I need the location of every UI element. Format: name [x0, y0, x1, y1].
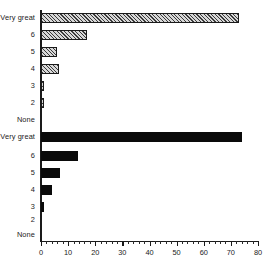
x-tick-minor: [57, 241, 58, 244]
x-tick-minor: [171, 241, 172, 244]
bar-top-6: [41, 30, 87, 40]
x-tick-minor: [182, 241, 183, 244]
x-tick-minor: [52, 241, 53, 244]
category-label: 6: [0, 27, 35, 43]
bar-row: 5: [0, 44, 265, 60]
x-tick-minor: [63, 241, 64, 244]
x-tick-minor: [90, 241, 91, 244]
category-label: 2: [0, 95, 35, 111]
x-tick-minor: [209, 241, 210, 244]
x-tick-label: 60: [194, 248, 214, 257]
x-tick-minor: [106, 241, 107, 244]
bar-bottom-6: [41, 151, 78, 161]
x-tick-minor: [166, 241, 167, 244]
x-tick-minor: [225, 241, 226, 244]
x-tick-label: 10: [58, 248, 78, 257]
x-tick-major: [68, 241, 69, 246]
category-label: 4: [0, 61, 35, 77]
bar-bottom-4: [41, 185, 52, 195]
x-tick-minor: [133, 241, 134, 244]
x-tick-minor: [160, 241, 161, 244]
x-tick-major: [258, 241, 259, 246]
category-label: 4: [0, 182, 35, 198]
category-label: None: [0, 227, 35, 243]
bar-top-3: [41, 81, 44, 91]
x-tick-minor: [242, 241, 243, 244]
category-label: Very great: [0, 129, 35, 145]
x-tick-minor: [46, 241, 47, 244]
x-tick-minor: [101, 241, 102, 244]
x-tick-minor: [74, 241, 75, 244]
bar-top-2: [41, 98, 44, 108]
x-tick-major: [150, 241, 151, 246]
bar-row: 2: [0, 212, 265, 228]
bar-row: Very great: [0, 129, 265, 145]
bar-row: 4: [0, 61, 265, 77]
bar-row: 4: [0, 182, 265, 198]
x-tick-major: [122, 241, 123, 246]
bar-bottom-3: [41, 202, 44, 212]
x-tick-minor: [144, 241, 145, 244]
x-tick-major: [177, 241, 178, 246]
x-tick-minor: [128, 241, 129, 244]
x-tick-minor: [155, 241, 156, 244]
plot-area: Very great 6 5 4 3: [0, 0, 265, 264]
x-tick-label: 30: [112, 248, 132, 257]
x-tick-minor: [215, 241, 216, 244]
bar-bottom-5: [41, 168, 60, 178]
x-tick-major: [95, 241, 96, 246]
bar-row: 6: [0, 27, 265, 43]
bar-row: None: [0, 112, 265, 128]
x-tick-minor: [220, 241, 221, 244]
category-label: 5: [0, 165, 35, 181]
x-tick-minor: [139, 241, 140, 244]
bar-bottom-very-great: [41, 132, 242, 142]
category-label: None: [0, 112, 35, 128]
bar-top-5: [41, 47, 57, 57]
x-tick-minor: [253, 241, 254, 244]
x-tick-label: 70: [221, 248, 241, 257]
x-tick-label: 20: [85, 248, 105, 257]
x-tick-major: [231, 241, 232, 246]
bar-row: 6: [0, 148, 265, 164]
chart-root: Very great 6 5 4 3: [0, 0, 265, 264]
x-tick-minor: [198, 241, 199, 244]
x-tick-minor: [247, 241, 248, 244]
category-label: 2: [0, 212, 35, 228]
bar-row: Very great: [0, 10, 265, 26]
category-label: 5: [0, 44, 35, 60]
bar-top-4: [41, 64, 59, 74]
x-tick-minor: [193, 241, 194, 244]
x-tick-label: 80: [248, 248, 265, 257]
bar-row: 3: [0, 78, 265, 94]
x-tick-minor: [79, 241, 80, 244]
category-label: 6: [0, 148, 35, 164]
x-tick-minor: [236, 241, 237, 244]
x-tick-major: [204, 241, 205, 246]
category-label: Very great: [0, 10, 35, 26]
x-tick-label: 50: [167, 248, 187, 257]
category-label: 3: [0, 78, 35, 94]
x-tick-minor: [117, 241, 118, 244]
bar-row: 5: [0, 165, 265, 181]
bar-top-very-great: [41, 13, 239, 23]
x-tick-minor: [187, 241, 188, 244]
x-tick-label: 40: [140, 248, 160, 257]
x-tick-minor: [84, 241, 85, 244]
x-tick-major: [41, 241, 42, 246]
x-tick-label: 0: [31, 248, 51, 257]
x-tick-minor: [112, 241, 113, 244]
bar-row: 2: [0, 95, 265, 111]
